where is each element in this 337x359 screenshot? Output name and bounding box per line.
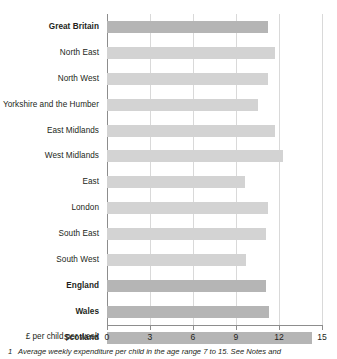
category-label: Great Britain — [0, 22, 99, 32]
bar — [107, 125, 275, 137]
tick-mark-0 — [107, 325, 108, 330]
category-label: England — [0, 281, 99, 291]
chart-row: Yorkshire and the Humber — [0, 92, 337, 118]
category-label: North East — [0, 48, 99, 58]
bar — [107, 99, 258, 111]
bar-track — [107, 195, 322, 221]
category-label: North West — [0, 74, 99, 84]
bar — [107, 202, 268, 214]
bar — [107, 73, 268, 85]
chart-row: South East — [0, 221, 337, 247]
tick-mark-15 — [322, 325, 323, 330]
bar-track — [107, 66, 322, 92]
bar — [107, 280, 266, 292]
category-label: East Midlands — [0, 126, 99, 136]
x-tick-label: 15 — [317, 331, 327, 343]
bar — [107, 47, 275, 59]
footnote-text: Average weekly expenditure per child in … — [18, 347, 337, 357]
chart-row: Great Britain — [0, 14, 337, 40]
x-axis-title: £ per child per week — [0, 331, 99, 343]
chart-row: East Midlands — [0, 118, 337, 144]
bar — [107, 254, 246, 266]
x-tick-label: 3 — [148, 331, 153, 343]
bar — [107, 228, 266, 240]
category-label: London — [0, 203, 99, 213]
bar-track — [107, 247, 322, 273]
chart-rows: Great BritainNorth EastNorth WestYorkshi… — [0, 14, 337, 325]
category-label: East — [0, 177, 99, 187]
x-tick-label: 9 — [234, 331, 239, 343]
chart-row: West Midlands — [0, 143, 337, 169]
category-label: Yorkshire and the Humber — [0, 100, 99, 110]
chart-row: London — [0, 195, 337, 221]
bar-track — [107, 14, 322, 40]
bar — [107, 306, 269, 318]
bar-track — [107, 92, 322, 118]
tick-mark-6 — [193, 325, 194, 330]
bar-chart: Great BritainNorth EastNorth WestYorkshi… — [0, 0, 337, 359]
bar-track — [107, 273, 322, 299]
chart-row: England — [0, 273, 337, 299]
chart-row: North West — [0, 66, 337, 92]
bar-track — [107, 118, 322, 144]
chart-row: Wales — [0, 299, 337, 325]
tick-mark-3 — [150, 325, 151, 330]
bar-track — [107, 143, 322, 169]
tick-mark-12 — [279, 325, 280, 330]
chart-row: South West — [0, 247, 337, 273]
x-tick-label: 6 — [191, 331, 196, 343]
x-tick-label: 12 — [274, 331, 284, 343]
bar-track — [107, 299, 322, 325]
category-label: South East — [0, 229, 99, 239]
category-label: Wales — [0, 307, 99, 317]
category-label: West Midlands — [0, 151, 99, 161]
bar — [107, 150, 283, 162]
footnote-marker: 1 — [8, 347, 12, 357]
x-axis-line — [107, 325, 323, 326]
bar — [107, 21, 268, 33]
bar — [107, 176, 245, 188]
bar-track — [107, 169, 322, 195]
bar-track — [107, 40, 322, 66]
chart-row: East — [0, 169, 337, 195]
tick-mark-9 — [236, 325, 237, 330]
bar-track — [107, 221, 322, 247]
category-label: South West — [0, 255, 99, 265]
chart-row: North East — [0, 40, 337, 66]
x-tick-label: 0 — [105, 331, 110, 343]
